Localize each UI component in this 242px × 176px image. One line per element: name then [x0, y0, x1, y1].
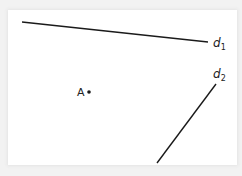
label-d2: d2 — [213, 67, 226, 83]
line-d1 — [22, 22, 208, 42]
geometry-figure: d1 d2 A — [0, 0, 242, 176]
point-a-dot — [87, 90, 91, 94]
label-d1: d1 — [213, 36, 226, 52]
label-point-a: A — [77, 86, 85, 99]
line-d2 — [157, 84, 216, 163]
